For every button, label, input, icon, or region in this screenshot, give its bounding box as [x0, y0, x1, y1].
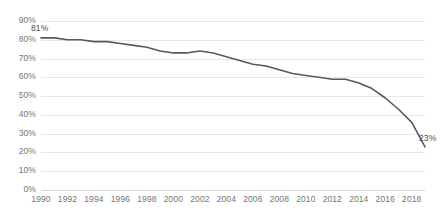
x-axis-tick-label: 1990	[31, 194, 50, 205]
x-axis-tick-label: 2004	[217, 194, 236, 205]
x-axis-tick-label: 2006	[243, 194, 262, 205]
end-value-label: 23%	[419, 133, 436, 143]
x-axis-tick-label: 2000	[164, 194, 183, 205]
x-axis-tick-label: 1994	[84, 194, 103, 205]
series-line-1	[41, 38, 425, 147]
x-axis-tick-label: 2018	[402, 194, 421, 205]
x-axis-tick-label: 2008	[270, 194, 289, 205]
x-axis-tick-label: 2010	[296, 194, 315, 205]
x-axis-tick-label: 2002	[190, 194, 209, 205]
x-axis-tick-label: 2012	[323, 194, 342, 205]
x-axis-tick-label: 1998	[137, 194, 156, 205]
x-axis-tick-label: 1996	[111, 194, 130, 205]
start-value-label: 81%	[31, 23, 48, 33]
x-axis-tick-label: 2016	[376, 194, 395, 205]
x-axis-tick-label: 1992	[58, 194, 77, 205]
series-line-group	[0, 0, 441, 224]
line-chart: 0%10%20%30%40%50%60%70%80%90% 81% 23% 19…	[0, 0, 441, 224]
x-axis: 1990199219941996199820002002200420062008…	[0, 194, 441, 210]
x-axis-tick-label: 2014	[349, 194, 368, 205]
